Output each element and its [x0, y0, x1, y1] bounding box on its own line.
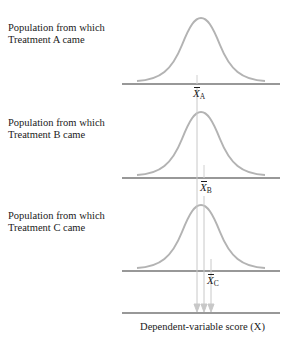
panel-c-label-line1: Population from which: [8, 210, 105, 222]
mean-subscript-a: A: [200, 92, 205, 101]
panel-a-label-line1: Population from which: [8, 22, 105, 34]
panel-a-label-line2: Treatment A came: [8, 34, 105, 46]
mean-subscript-b: B: [207, 186, 212, 195]
mean-label-b: XB: [200, 181, 212, 195]
panel-a-graphic: [122, 18, 280, 84]
panel-b-label-line1: Population from which: [8, 117, 105, 129]
panel-c-label-line2: Treatment C came: [8, 222, 105, 234]
mean-symbol-b: X: [200, 181, 207, 193]
arrowhead-b: [201, 304, 207, 312]
mean-symbol-a: X: [193, 87, 200, 99]
mean-subscript-c: C: [214, 279, 219, 288]
arrowhead-a: [194, 304, 200, 312]
panel-b-label-line2: Treatment B came: [8, 129, 105, 141]
panel-c-label: Population from which Treatment C came: [8, 210, 105, 234]
panel-b-graphic: [122, 112, 280, 178]
diagram-canvas: [0, 0, 299, 347]
mean-symbol-c: X: [207, 274, 214, 286]
axis-title: Dependent-variable score (X): [125, 321, 280, 332]
normal-curve-b: [137, 112, 265, 175]
normal-curve-c: [137, 205, 265, 268]
panel-c-graphic: [122, 205, 280, 271]
mean-label-c: XC: [207, 274, 219, 288]
arrowhead-c: [208, 304, 214, 312]
panel-a-label: Population from which Treatment A came: [8, 22, 105, 46]
mean-label-a: XA: [193, 87, 205, 101]
normal-curve-a: [137, 18, 265, 81]
panel-b-label: Population from which Treatment B came: [8, 117, 105, 141]
